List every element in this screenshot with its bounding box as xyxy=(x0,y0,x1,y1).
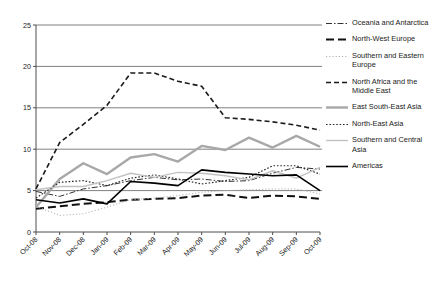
legend-swatch-americas xyxy=(326,162,348,171)
legend-label: North-West Europe xyxy=(352,34,415,43)
series-line-north-east-asia xyxy=(36,166,320,198)
legend-label: North Africa and the Middle East xyxy=(352,77,436,96)
series-line-southern-and-eastern-europe xyxy=(36,189,320,216)
x-axis-tick-label: Oct-08 xyxy=(18,235,40,257)
y-axis-tick-label: 15 xyxy=(23,103,31,112)
x-axis-tick-label: Jul-09 xyxy=(232,235,252,255)
x-axis-tick-label: Jan-09 xyxy=(89,235,111,257)
y-axis-tick-label: 10 xyxy=(23,145,31,154)
chart-container: 0510152025Oct-08Nov-08Dec-08Jan-09Feb-09… xyxy=(0,0,436,287)
x-axis-tick-label: Apr-09 xyxy=(160,235,182,257)
legend-swatch-oceania-and-antarctica xyxy=(326,19,348,28)
legend-item[interactable]: North-West Europe xyxy=(326,34,436,43)
legend-label: Oceania and Antarctica xyxy=(352,18,428,27)
legend-swatch-southern-and-central-asia xyxy=(326,136,348,145)
x-axis-tick-label: Feb-09 xyxy=(112,235,134,257)
legend-swatch-east-south-east-asia xyxy=(326,103,348,112)
x-axis-tick-label: Jun-09 xyxy=(207,235,229,257)
legend-item[interactable]: North-East Asia xyxy=(326,119,436,128)
legend-swatch-north-west-europe xyxy=(326,35,348,44)
legend-label: East South-East Asia xyxy=(352,102,421,111)
series-line-north-west-europe xyxy=(36,195,320,209)
legend-label: Southern and Central Asia xyxy=(352,135,436,154)
legend-item[interactable]: Americas xyxy=(326,161,436,170)
x-axis-tick-label: Sep-09 xyxy=(277,235,300,258)
x-axis-tick-label: May-09 xyxy=(182,235,205,258)
legend-label: Southern and Eastern Europe xyxy=(352,51,436,70)
legend-swatch-southern-and-eastern-europe xyxy=(326,52,348,61)
y-axis-tick-label: 5 xyxy=(27,186,31,195)
x-axis-tick-label: Aug-09 xyxy=(253,235,276,258)
x-axis-tick-label: Oct-09 xyxy=(302,235,324,257)
x-axis-tick-label: Mar-09 xyxy=(135,235,157,257)
legend-swatch-north-africa-and-the-middle-east xyxy=(326,78,348,87)
x-axis-tick-label: Nov-08 xyxy=(40,235,63,258)
y-axis-tick-label: 20 xyxy=(23,62,31,71)
y-axis-tick-label: 25 xyxy=(23,21,31,30)
legend-label: North-East Asia xyxy=(352,119,403,128)
y-axis-tick-label: 0 xyxy=(27,228,31,237)
chart-legend: Oceania and AntarcticaNorth-West EuropeS… xyxy=(326,18,436,177)
legend-label: Americas xyxy=(352,161,383,170)
x-axis-tick-label: Dec-08 xyxy=(64,235,87,258)
legend-swatch-north-east-asia xyxy=(326,120,348,129)
legend-item[interactable]: Southern and Eastern Europe xyxy=(326,51,436,70)
legend-item[interactable]: Oceania and Antarctica xyxy=(326,18,436,27)
legend-item[interactable]: East South-East Asia xyxy=(326,102,436,111)
legend-item[interactable]: North Africa and the Middle East xyxy=(326,77,436,96)
legend-item[interactable]: Southern and Central Asia xyxy=(326,135,436,154)
